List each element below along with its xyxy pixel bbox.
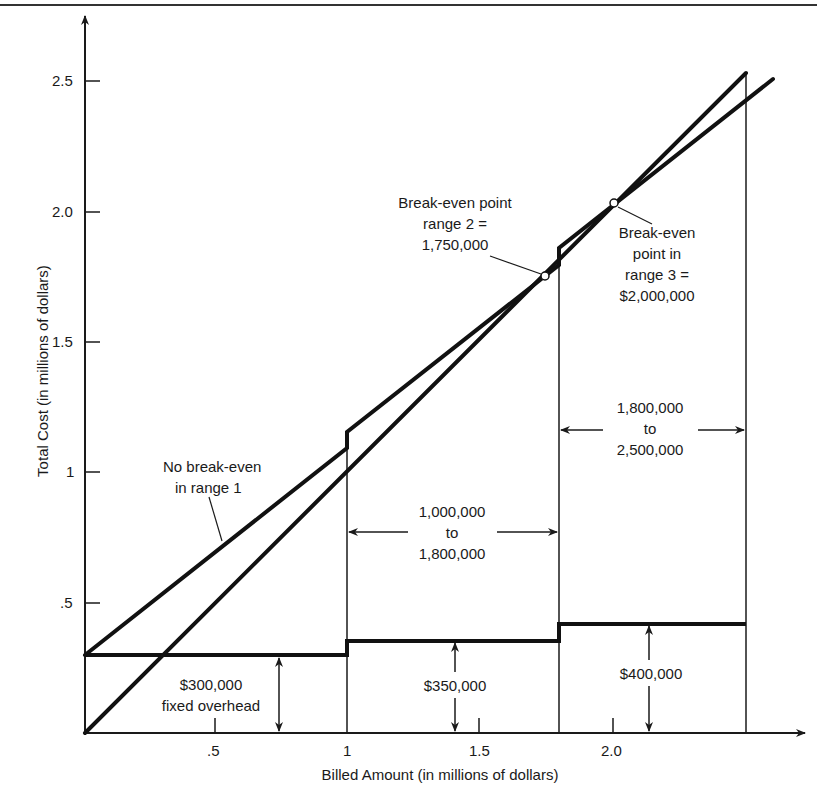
annotation-line: 1,000,000 bbox=[419, 501, 486, 522]
y-tick-label: 2.0 bbox=[52, 203, 73, 220]
x-tick-label: 1.5 bbox=[469, 742, 490, 759]
overhead-2-annotation: $350,000 bbox=[422, 675, 489, 696]
break-even-2-annotation: Break-even point range 2 = 1,750,000 bbox=[398, 192, 511, 255]
y-tick-label: .5 bbox=[60, 594, 73, 611]
annotation-line: 2,500,000 bbox=[617, 439, 684, 460]
annotation-line: fixed overhead bbox=[162, 695, 260, 716]
annotation-line: range 2 = bbox=[398, 213, 511, 234]
annotation-line: Break-even point bbox=[398, 192, 511, 213]
break-even-point-3-marker bbox=[610, 199, 618, 207]
break-even-2-leader bbox=[490, 256, 541, 274]
annotation-line: point in bbox=[619, 243, 696, 264]
range-boundaries bbox=[347, 73, 746, 733]
x-axis-title: Billed Amount (in millions of dollars) bbox=[322, 766, 559, 783]
annotation-line: to bbox=[617, 418, 684, 439]
annotation-line: in range 1 bbox=[163, 477, 261, 498]
range-3-annotation: 1,800,000 to 2,500,000 bbox=[617, 397, 684, 460]
x-ticks bbox=[215, 718, 613, 733]
y-tick-label: 1 bbox=[66, 463, 74, 480]
fixed-overhead-line bbox=[85, 624, 746, 655]
y-axis-title: Total Cost (in millions of dollars) bbox=[34, 265, 51, 477]
annotation-line: $2,000,000 bbox=[619, 285, 696, 306]
break-even-chart bbox=[0, 0, 817, 791]
y-ticks bbox=[85, 81, 100, 603]
annotation-line: No break-even bbox=[163, 456, 261, 477]
overhead-3-annotation: $400,000 bbox=[618, 663, 685, 684]
y-tick-label: 1.5 bbox=[52, 333, 73, 350]
annotation-line: range 3 = bbox=[619, 264, 696, 285]
no-break-even-leader bbox=[209, 497, 222, 541]
annotation-line: to bbox=[419, 522, 486, 543]
annotation-line: $300,000 bbox=[162, 674, 260, 695]
range-2-annotation: 1,000,000 to 1,800,000 bbox=[419, 501, 486, 564]
annotation-line: Break-even bbox=[619, 222, 696, 243]
y-tick-label: 2.5 bbox=[52, 72, 73, 89]
annotation-line: 1,750,000 bbox=[398, 234, 511, 255]
break-even-3-annotation: Break-even point in range 3 = $2,000,000 bbox=[619, 222, 696, 306]
overhead-1-annotation: $300,000 fixed overhead bbox=[162, 674, 260, 716]
total-cost-line bbox=[85, 79, 773, 655]
annotation-line: 1,800,000 bbox=[617, 397, 684, 418]
annotation-line: 1,800,000 bbox=[419, 543, 486, 564]
no-break-even-annotation: No break-even in range 1 bbox=[163, 456, 261, 498]
x-tick-label: 2.0 bbox=[601, 742, 622, 759]
break-even-point-2-marker bbox=[541, 272, 549, 280]
x-tick-label: 1 bbox=[343, 742, 351, 759]
x-tick-label: .5 bbox=[207, 742, 220, 759]
